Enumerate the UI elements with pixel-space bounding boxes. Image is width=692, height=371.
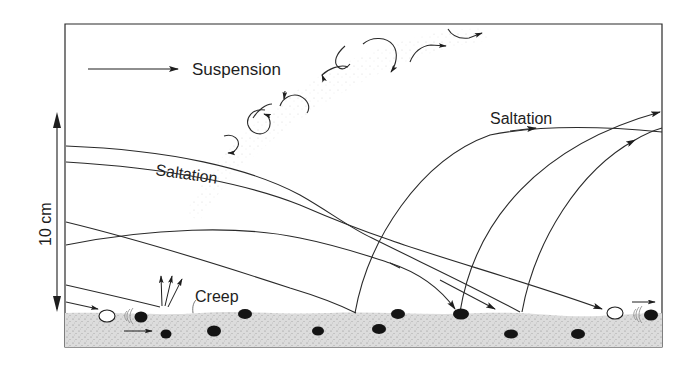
transport-diagram: Suspension Saltation Saltation Creep 10 … (0, 0, 692, 371)
impacting-grain-right (607, 307, 623, 319)
impacting-grain-left (99, 310, 115, 322)
scale-label: 10 cm (37, 202, 54, 246)
scale-arrow-up-icon (53, 112, 61, 128)
sand-bed (65, 312, 662, 347)
rising-saltation-arcs (355, 112, 662, 313)
ejection-arrows (161, 276, 196, 313)
saltation-trajectories (66, 146, 602, 313)
suspension-dust-cloud (185, 28, 490, 220)
creep-label: Creep (195, 288, 239, 305)
suspension-label: Suspension (192, 60, 281, 79)
scale-arrow-down-icon (53, 296, 61, 312)
saltation-label-left: Saltation (155, 161, 219, 187)
saltation-label-right: Saltation (490, 110, 552, 127)
scale-bar: 10 cm (37, 112, 61, 312)
